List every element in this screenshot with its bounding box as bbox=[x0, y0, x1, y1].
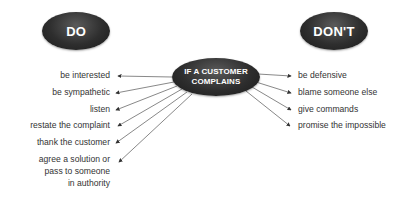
do-item: thank the customer bbox=[37, 137, 110, 148]
dont-item: blame someone else bbox=[298, 87, 377, 98]
center-label-line2: COMPLAINS bbox=[184, 77, 248, 87]
do-item: be sympathetic bbox=[52, 87, 110, 98]
do-item: listen bbox=[90, 104, 110, 115]
center-oval: IF A CUSTOMER COMPLAINS bbox=[172, 58, 260, 96]
dont-oval: DON'T bbox=[300, 12, 368, 50]
dont-item: give commands bbox=[298, 104, 358, 115]
do-oval: DO bbox=[42, 12, 110, 50]
dont-item: be defensive bbox=[298, 70, 347, 81]
do-item: pass to someone bbox=[45, 166, 110, 177]
do-item: be interested bbox=[60, 70, 110, 81]
dont-item: promise the impossible bbox=[298, 120, 386, 131]
dont-label: DON'T bbox=[313, 24, 354, 39]
center-label-line1: IF A CUSTOMER bbox=[184, 67, 248, 77]
do-item: in authority bbox=[68, 178, 110, 189]
do-item: restate the complaint bbox=[30, 120, 110, 131]
do-label: DO bbox=[66, 24, 86, 39]
do-item: agree a solution or bbox=[39, 154, 110, 165]
